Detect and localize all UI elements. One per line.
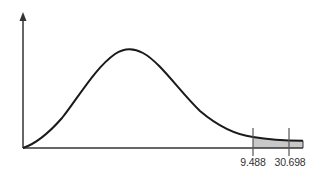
density-curve xyxy=(23,49,303,148)
y-axis-arrow-icon xyxy=(20,12,27,21)
marker-label-9488: 9.488 xyxy=(240,156,265,168)
chi-square-chart xyxy=(0,0,318,182)
marker-label-30698: 30.698 xyxy=(275,156,306,168)
